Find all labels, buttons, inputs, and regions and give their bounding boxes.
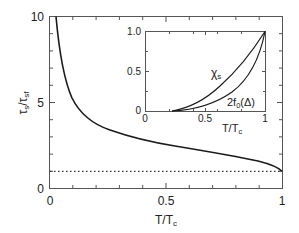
main-ytick-10: 10: [31, 10, 45, 24]
main-ytick-5: 5: [37, 96, 44, 110]
main-xtick-1: 1: [279, 194, 286, 208]
main-xtick-0: 0: [47, 194, 54, 208]
two-f0-delta-annotation: 2f0(Δ): [227, 96, 255, 110]
inset-xtick-1: 1: [262, 113, 268, 124]
inset-plot: 1.0 0.5 0 0 0.5 1 T/Tc χs 2f0(Δ): [127, 26, 268, 136]
inset-ytick-0: 0: [135, 105, 141, 116]
inset-xtick-0: 0: [142, 113, 148, 124]
inset-xtick-0.5: 0.5: [198, 113, 212, 124]
main-ytick-0: 0: [37, 182, 44, 196]
chart-figure: 10 5 0 0 0.5 1 T/Tc τs/τsf: [0, 0, 299, 233]
inset-x-axis-label: T/Tc: [222, 122, 243, 136]
main-xtick-0.5: 0.5: [158, 194, 175, 208]
inset-ytick-1.0: 1.0: [127, 26, 141, 37]
inset-ytick-0.5: 0.5: [127, 66, 141, 77]
main-y-axis-label: τs/τsf: [16, 91, 31, 115]
main-x-axis-label: T/Tc: [155, 213, 177, 228]
